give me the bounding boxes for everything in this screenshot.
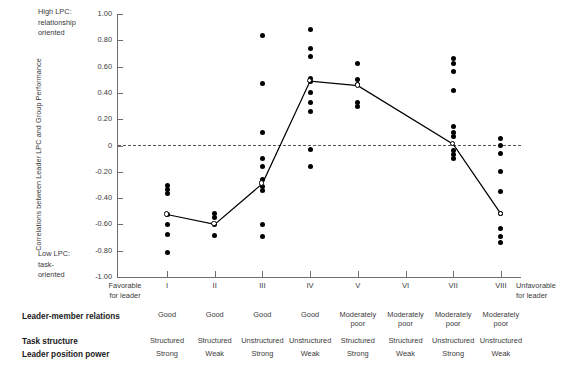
data-point — [498, 240, 503, 245]
table-cell-power-vi: Weak — [379, 349, 433, 358]
table-cell-task-viii: Unstructured — [474, 336, 528, 345]
y-tick-mark — [117, 40, 123, 41]
y-tick-mark — [117, 224, 123, 225]
x-tick-mark — [262, 271, 263, 278]
table-cell-power-vii: Strong — [426, 349, 480, 358]
data-point — [308, 109, 313, 114]
data-point — [212, 215, 217, 220]
y-tick-mark — [117, 198, 123, 199]
x-tick-mark — [215, 271, 216, 278]
x-tick-mark — [167, 271, 168, 278]
data-point — [165, 250, 170, 255]
data-point — [451, 156, 456, 161]
data-point — [260, 234, 265, 239]
row-header-leader-position-power: Leader position power — [22, 350, 109, 359]
favorable-line-1: Favorable — [94, 281, 156, 291]
table-cell-task-iv: Unstructured — [283, 336, 337, 345]
y-tick-label: -0.20 — [72, 167, 112, 176]
y-tick-label: 0.40 — [72, 88, 112, 97]
table-cell-relations-v: Moderatelypoor — [331, 310, 385, 329]
row-header-leader-member-relations: Leader-member relations — [22, 312, 120, 321]
row-header-task-structure: Task structure — [22, 337, 78, 346]
data-point — [165, 222, 170, 227]
table-cell-relations-vii: Moderatelypoor — [426, 310, 480, 329]
data-point — [451, 88, 456, 93]
y-tick-mark — [117, 119, 123, 120]
table-cell-power-iv: Weak — [283, 349, 337, 358]
low-lpc-line-1: Low LPC: — [38, 249, 70, 260]
table-cell-power-ii: Weak — [188, 349, 242, 358]
table-cell-task-vi: Structured — [379, 336, 433, 345]
chart-root: Correlations between Leader LPC and Grou… — [0, 0, 581, 369]
y-tick-label: -1.00 — [72, 272, 112, 281]
data-point — [451, 124, 456, 129]
data-point — [308, 90, 313, 95]
x-tick-label-ii: II — [195, 281, 235, 290]
data-point — [308, 27, 313, 32]
y-tick-mark — [117, 14, 123, 15]
data-point — [451, 69, 456, 74]
table-cell-power-iii: Strong — [235, 349, 289, 358]
data-point — [165, 232, 170, 237]
unfavorable-end-caption: Unfavorable for leader — [516, 281, 580, 302]
data-point — [498, 189, 503, 194]
table-cell-relations-viii: Moderatelypoor — [474, 310, 528, 329]
y-tick-label: 0.80 — [72, 35, 112, 44]
x-tick-label-iv: IV — [290, 281, 330, 290]
data-point — [308, 100, 313, 105]
zero-reference-line — [118, 145, 521, 146]
y-tick-mark — [117, 251, 123, 252]
table-cell-task-v: Structured — [331, 336, 385, 345]
low-lpc-line-3: oriented — [38, 270, 70, 281]
x-tick-label-iii: III — [242, 281, 282, 290]
data-point — [260, 188, 265, 193]
y-tick-label: 1.00 — [72, 9, 112, 18]
data-point — [260, 130, 265, 135]
y-tick-mark — [117, 67, 123, 68]
data-point — [260, 156, 265, 161]
data-point — [308, 164, 313, 169]
y-tick-label: -0.40 — [72, 193, 112, 202]
y-tick-label: 0 — [72, 141, 112, 150]
data-point — [451, 134, 456, 139]
data-point — [308, 46, 313, 51]
x-axis-line — [117, 277, 521, 278]
data-point — [355, 104, 360, 109]
y-tick-mark — [117, 172, 123, 173]
low-lpc-line-2: task- — [38, 260, 70, 271]
data-point — [498, 226, 503, 231]
y-tick-label: 0.60 — [72, 62, 112, 71]
table-cell-relations-i: Good — [140, 310, 194, 319]
data-point — [260, 222, 265, 227]
y-tick-label: -0.60 — [72, 219, 112, 228]
x-tick-label-vii: VII — [433, 281, 473, 290]
data-point — [212, 233, 217, 238]
data-point — [260, 81, 265, 86]
table-cell-relations-iv: Good — [283, 310, 337, 319]
y-tick-label: 0.20 — [72, 114, 112, 123]
x-tick-mark — [453, 271, 454, 278]
table-cell-task-vii: Unstructured — [426, 336, 480, 345]
data-point — [451, 61, 456, 66]
table-cell-power-i: Strong — [140, 349, 194, 358]
table-cell-power-v: Strong — [331, 349, 385, 358]
favorable-line-2: for leader — [94, 291, 156, 301]
table-cell-power-viii: Weak — [474, 349, 528, 358]
median-marker — [498, 211, 503, 216]
data-point — [308, 54, 313, 59]
x-tick-mark — [358, 271, 359, 278]
table-cell-relations-vi: Moderatelypoor — [379, 310, 433, 329]
data-point — [260, 164, 265, 169]
x-tick-label-vi: VI — [386, 281, 426, 290]
y-tick-label: -0.80 — [72, 246, 112, 255]
data-point — [165, 191, 170, 196]
y-tick-mark — [117, 277, 123, 278]
data-point — [260, 33, 265, 38]
table-cell-task-ii: Structured — [188, 336, 242, 345]
y-tick-mark — [117, 93, 123, 94]
unfavorable-line-1: Unfavorable — [516, 281, 580, 291]
data-point — [498, 234, 503, 239]
data-point — [355, 61, 360, 66]
data-point — [498, 169, 503, 174]
data-point — [498, 136, 503, 141]
